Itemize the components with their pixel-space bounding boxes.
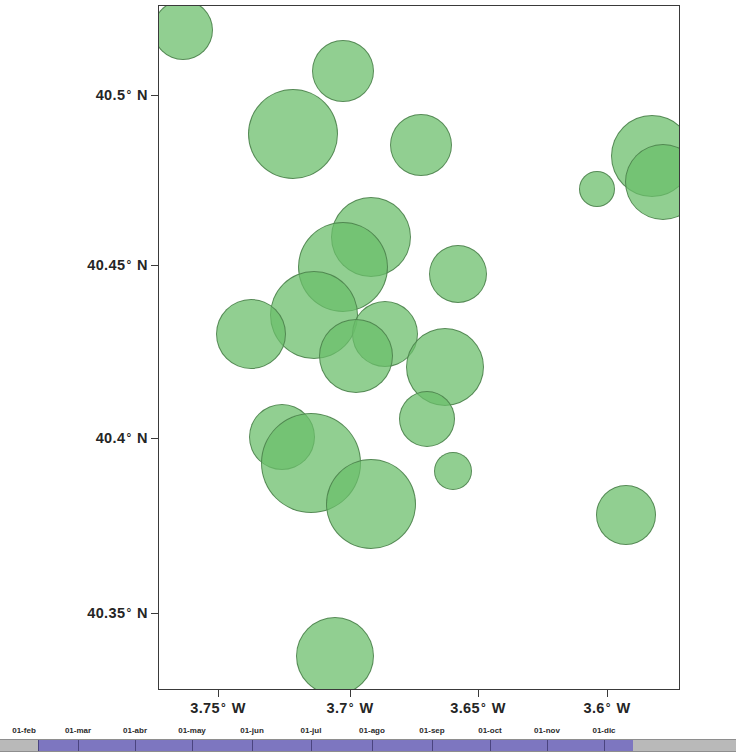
timeline-month-label: 01-dic bbox=[592, 726, 615, 735]
timeline-divider bbox=[604, 740, 605, 751]
y-axis-tick-label: 40.5° N bbox=[96, 87, 148, 103]
timeline-divider bbox=[252, 740, 253, 751]
x-axis-tick-label: 3.75° W bbox=[190, 700, 246, 716]
y-axis-labels: 40.5° N40.45° N40.4° N40.35° N bbox=[0, 5, 148, 690]
timeline-track[interactable] bbox=[0, 739, 736, 752]
y-axis-tick-label: 40.35° N bbox=[87, 605, 148, 621]
timeline-month-label: 01-ago bbox=[359, 726, 385, 735]
x-axis-tick bbox=[350, 690, 351, 697]
timeline-month-label: 01-may bbox=[178, 726, 206, 735]
axis-tick-layer bbox=[158, 5, 680, 690]
x-axis-tick bbox=[218, 690, 219, 697]
x-axis-labels: 3.75° W3.7° W3.65° W3.6° W bbox=[0, 700, 736, 724]
x-axis-tick-label: 3.65° W bbox=[450, 700, 506, 716]
y-axis-tick-label: 40.4° N bbox=[96, 430, 148, 446]
timeline-divider bbox=[78, 740, 79, 751]
x-axis-tick bbox=[478, 690, 479, 697]
y-axis-tick bbox=[151, 95, 158, 96]
timeline-divider bbox=[547, 740, 548, 751]
timeline-divider bbox=[432, 740, 433, 751]
timeline-month-labels: 01-feb01-mar01-abr01-may01-jun01-jul01-a… bbox=[0, 726, 736, 738]
timeline-month-label: 01-jul bbox=[301, 726, 322, 735]
x-axis-tick bbox=[607, 690, 608, 697]
timeline-month-label: 01-nov bbox=[534, 726, 560, 735]
y-axis-tick bbox=[151, 613, 158, 614]
timeline-divider bbox=[490, 740, 491, 751]
bubble-map-figure: 40.5° N40.45° N40.4° N40.35° N 3.75° W3.… bbox=[0, 0, 736, 753]
timeline-month-label: 01-oct bbox=[478, 726, 502, 735]
timeline-month-label: 01-mar bbox=[65, 726, 91, 735]
timeline-month-label: 01-sep bbox=[419, 726, 444, 735]
timeline-month-label: 01-feb bbox=[12, 726, 36, 735]
timeline-divider bbox=[135, 740, 136, 751]
y-axis-tick bbox=[151, 265, 158, 266]
timeline-month-label: 01-abr bbox=[123, 726, 147, 735]
x-axis-tick-label: 3.6° W bbox=[583, 700, 630, 716]
y-axis-tick bbox=[151, 438, 158, 439]
x-axis-tick-label: 3.7° W bbox=[326, 700, 373, 716]
timeline-fill[interactable] bbox=[38, 740, 633, 751]
y-axis-tick-label: 40.45° N bbox=[87, 257, 148, 273]
timeline-divider bbox=[372, 740, 373, 751]
timeline-divider bbox=[311, 740, 312, 751]
timeline-control[interactable]: 01-feb01-mar01-abr01-may01-jun01-jul01-a… bbox=[0, 726, 736, 753]
timeline-month-label: 01-jun bbox=[240, 726, 264, 735]
timeline-divider bbox=[192, 740, 193, 751]
timeline-divider bbox=[38, 740, 39, 751]
